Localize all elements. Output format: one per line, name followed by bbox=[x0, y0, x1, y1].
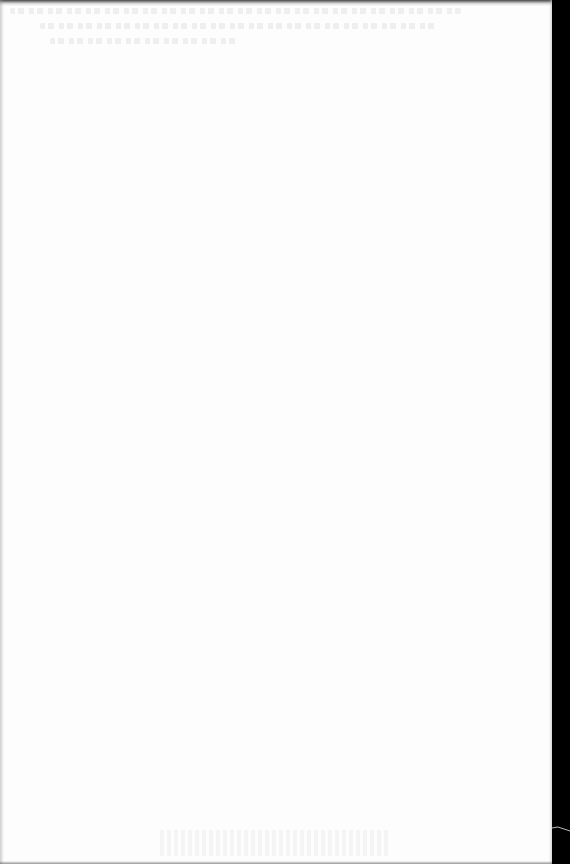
bleed-line bbox=[50, 38, 238, 44]
bleed-line bbox=[40, 23, 435, 29]
paper-fiber-mark bbox=[552, 826, 570, 832]
scan-background bbox=[0, 0, 570, 864]
right-edge-shadow bbox=[549, 0, 552, 864]
left-edge-shadow bbox=[0, 0, 4, 864]
bleed-line bbox=[10, 8, 461, 14]
bleed-through-bottom bbox=[160, 830, 390, 856]
top-edge-shadow bbox=[0, 0, 552, 6]
bleed-through-top bbox=[10, 8, 480, 63]
blank-page bbox=[0, 0, 552, 864]
